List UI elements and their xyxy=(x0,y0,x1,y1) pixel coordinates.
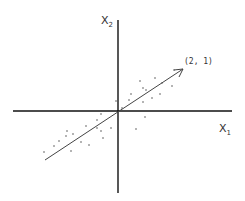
scatter-diagram: X2 X1 (2, 1) xyxy=(0,0,245,201)
x1-axis-label: X1 xyxy=(219,122,231,137)
diagram-canvas xyxy=(0,0,245,201)
x2-axis-label: X2 xyxy=(101,14,113,29)
vector-label: (2, 1) xyxy=(184,57,213,66)
